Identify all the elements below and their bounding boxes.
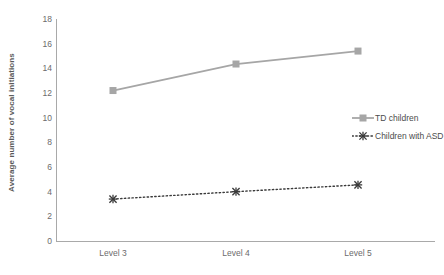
chart-legend: TD childrenChildren with ASD	[352, 110, 444, 146]
x-marker-icon	[352, 130, 374, 142]
y-axis-tick: 4	[30, 187, 52, 196]
legend-item[interactable]: Children with ASD	[352, 128, 444, 143]
data-point-marker	[354, 181, 362, 189]
y-axis-tick: 8	[30, 138, 52, 147]
y-axis-tick: 14	[30, 64, 52, 73]
y-axis-label: Average number of vocal initiations	[0, 0, 22, 245]
data-point-marker	[359, 131, 367, 139]
legend-label: Children with ASD	[374, 131, 444, 141]
y-axis-label-text: Average number of vocal initiations	[7, 53, 16, 192]
data-point-marker	[109, 195, 117, 203]
y-axis-tick: 6	[30, 163, 52, 172]
y-axis-tick: 2	[30, 212, 52, 221]
x-axis-tick: Level 4	[222, 248, 249, 258]
y-axis-tick: 18	[30, 15, 52, 24]
data-point-marker	[360, 114, 367, 121]
y-axis-tick: 16	[30, 39, 52, 48]
y-axis-tick: 0	[30, 237, 52, 246]
x-axis-tick: Level 3	[99, 248, 126, 258]
legend-label: TD children	[374, 113, 418, 123]
data-point-marker	[233, 61, 240, 68]
y-axis-tick: 10	[30, 113, 52, 122]
square-marker-icon	[352, 112, 374, 124]
data-point-marker	[232, 187, 240, 195]
data-point-marker	[355, 48, 362, 55]
y-axis-tick: 12	[30, 89, 52, 98]
x-axis-tick: Level 5	[344, 248, 371, 258]
data-point-marker	[110, 87, 117, 94]
chart-figure: Average number of vocal initiations 1816…	[0, 0, 444, 275]
y-axis-tick-labels: 181614121086420	[26, 0, 52, 275]
series-line	[113, 51, 358, 90]
x-axis-line	[56, 241, 435, 242]
legend-item[interactable]: TD children	[352, 110, 444, 125]
